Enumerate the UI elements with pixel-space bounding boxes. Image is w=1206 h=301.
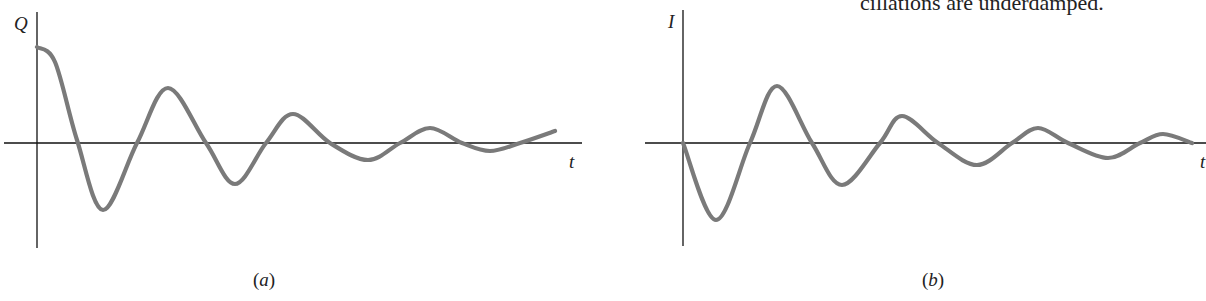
caption-paren-close: ) (269, 269, 275, 290)
caption-letter: a (259, 269, 269, 290)
panel-b-current-curve (683, 86, 1192, 220)
panel-a-charge-curve (37, 47, 555, 210)
panel-a-x-label: t (569, 152, 574, 171)
panel-b-caption: (b) (922, 270, 944, 289)
margin-note-text: cillations are underdamped. (860, 0, 1104, 14)
caption-letter: b (928, 269, 938, 290)
panel-a-y-label: Q (14, 14, 28, 33)
panel-b-x-label: t (1200, 152, 1205, 171)
panel-a-caption: (a) (253, 270, 275, 289)
caption-paren-close: ) (938, 269, 944, 290)
figure-canvas (0, 0, 1206, 301)
panel-b-y-label: I (668, 12, 674, 31)
